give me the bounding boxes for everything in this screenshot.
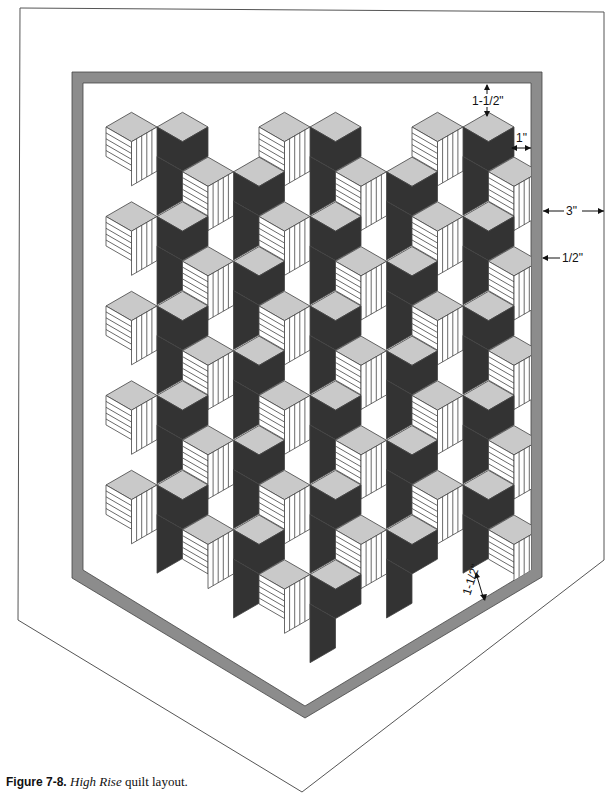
dim-side-label: 1" — [516, 131, 527, 145]
dim-top-label: 1-1/2" — [472, 94, 504, 108]
figure-title-rest: quilt layout. — [122, 774, 188, 789]
figure-title: High Rise — [70, 774, 122, 789]
dim-gray-label: 1/2" — [562, 251, 583, 265]
quilt-layout-diagram: 1-1/2" 1" 3" 1/2" 1-1/2" — [0, 0, 608, 798]
figure-caption: Figure 7-8. High Rise quilt layout. — [6, 774, 188, 790]
figure-number: Figure 7-8. — [6, 775, 67, 789]
dim-outer-label: 3" — [566, 204, 577, 218]
